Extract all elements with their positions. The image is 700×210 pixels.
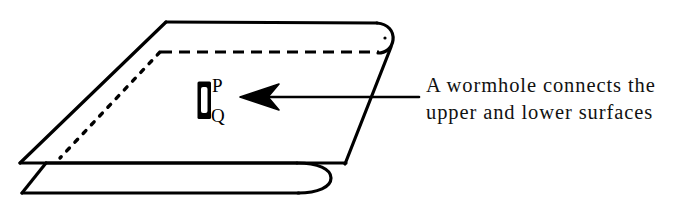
caption-line-2: upper and lower surfaces (426, 99, 694, 126)
wormhole-throat-marker (198, 82, 212, 120)
caption-line-1: A wormhole connects the (426, 72, 694, 99)
caption: A wormhole connects the upper and lower … (426, 72, 694, 126)
fold-cap-tick (383, 36, 386, 39)
wormhole-marker-slot (201, 87, 208, 113)
label-p: P (212, 76, 223, 95)
upper-sheet-top-edge (166, 22, 377, 23)
label-q: Q (211, 106, 225, 125)
wormhole-figure: P Q A wormhole connects the upper and lo… (0, 0, 700, 210)
